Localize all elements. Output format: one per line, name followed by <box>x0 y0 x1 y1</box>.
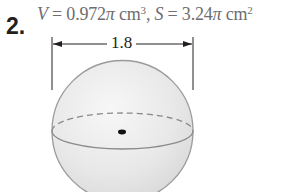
diameter-label: 1.8 <box>107 33 136 53</box>
left-arrowhead-icon <box>53 41 62 47</box>
sphere-body <box>52 61 193 193</box>
sphere-figure <box>0 0 300 192</box>
right-arrowhead-icon <box>183 41 192 47</box>
center-dot <box>118 130 126 135</box>
